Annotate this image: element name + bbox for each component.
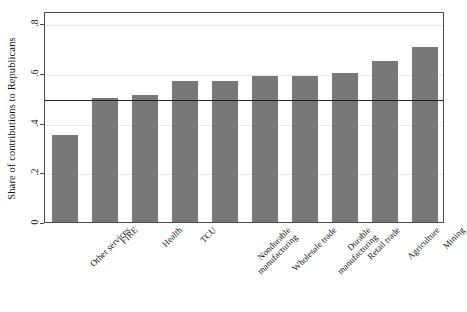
y-axis-tick-label: 0 — [22, 217, 38, 227]
x-axis-category-label: Health — [160, 225, 184, 249]
x-axis-category-labels: Other servicesFIREHealthTCUNondurableman… — [44, 225, 444, 312]
bar — [372, 61, 398, 222]
x-axis-category-label-line1: Agriculture — [405, 225, 441, 261]
y-axis-title: Share of contributions to Republicans — [6, 37, 17, 199]
bar — [132, 95, 158, 222]
y-axis-title-container: Share of contributions to Republicans — [0, 12, 22, 224]
x-axis-category-label-line1: Wholesale trade — [290, 225, 338, 273]
y-axis-tick-label-text: .8 — [29, 20, 39, 27]
reference-line-half — [45, 100, 443, 102]
x-axis-category-label-line1: TCU — [198, 225, 218, 245]
y-axis-tick-labels: 0.2.4.6.8 — [22, 0, 38, 312]
y-axis-tick-mark — [40, 223, 44, 224]
y-axis-tick-label-text: .2 — [29, 169, 39, 176]
y-axis-tick-label: .2 — [22, 167, 38, 177]
bar — [172, 81, 198, 222]
x-axis-category-label: Agriculture — [405, 225, 441, 261]
bar — [332, 73, 358, 222]
y-axis-tick-label-text: .4 — [29, 119, 39, 126]
bar — [92, 98, 118, 222]
y-axis-tick-label: .8 — [22, 18, 38, 28]
x-axis-category-label: TCU — [198, 225, 218, 245]
plot-area — [44, 12, 444, 223]
bar — [212, 81, 238, 222]
y-axis-tick-label: .6 — [22, 68, 38, 78]
bar — [292, 76, 318, 222]
y-axis-tick-label: .4 — [22, 118, 38, 128]
bar-series — [45, 13, 443, 222]
x-axis-category-label: Mining — [441, 225, 467, 251]
bar — [252, 76, 278, 222]
x-axis-category-label-line1: Health — [160, 225, 184, 249]
x-axis-category-label-line1: Mining — [441, 225, 467, 251]
bar — [52, 135, 78, 222]
bar — [412, 47, 438, 222]
x-axis-category-label: Wholesale trade — [290, 225, 338, 273]
y-axis-tick-label-text: .6 — [29, 69, 39, 76]
